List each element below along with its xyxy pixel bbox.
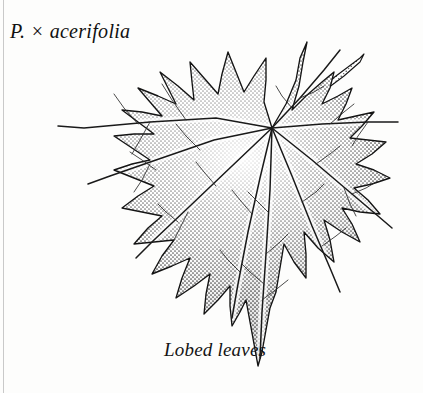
leaf-illustration xyxy=(0,0,423,393)
vein-ul-b xyxy=(114,94,138,124)
figure-caption: Lobed leaves xyxy=(164,338,266,361)
illustration-plate: P. × acerifolia Lobed leaves xyxy=(0,0,423,393)
